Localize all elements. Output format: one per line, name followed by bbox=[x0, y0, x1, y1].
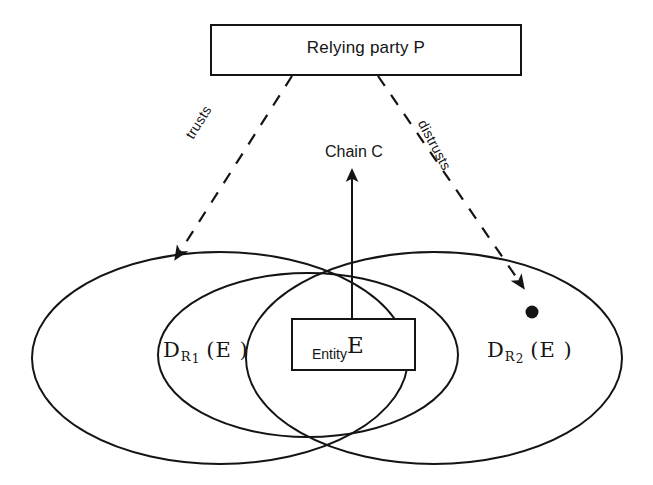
distrusts-connector bbox=[378, 76, 523, 287]
right-domain-label-subnum: 2 bbox=[515, 352, 525, 366]
diagram-canvas: Relying party P Chain C trusts distrusts… bbox=[0, 0, 653, 485]
relying-party-label: Relying party P bbox=[211, 38, 521, 58]
trusts-connector bbox=[176, 76, 292, 258]
chain-c-label: Chain C bbox=[325, 143, 383, 161]
entity-label-text: Entity bbox=[312, 346, 347, 362]
left-domain-label-arg: (E ) bbox=[200, 338, 248, 362]
right-domain-label-arg: (E ) bbox=[524, 338, 572, 362]
distrusted-point-dot bbox=[526, 306, 539, 319]
left-domain-label-subnum: 1 bbox=[191, 352, 201, 366]
left-domain-label: DR1(E ) bbox=[163, 338, 249, 366]
entity-label-superscript: E bbox=[347, 332, 364, 358]
left-domain-label-sub: R bbox=[181, 349, 191, 364]
diagram-vector-layer bbox=[0, 0, 653, 485]
right-domain-label-sub: R bbox=[505, 349, 515, 364]
right-domain-label-d: D bbox=[487, 338, 505, 362]
right-domain-label: DR2(E ) bbox=[487, 338, 573, 366]
entity-label: EntityE bbox=[312, 332, 364, 362]
left-domain-label-d: D bbox=[163, 338, 181, 362]
